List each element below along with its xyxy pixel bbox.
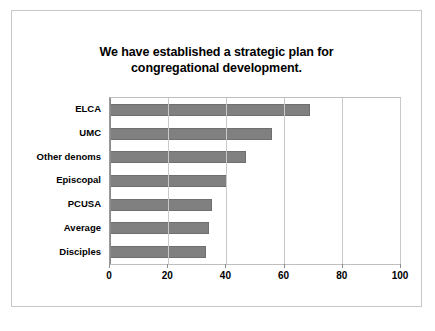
tick-label-60: 60 [278, 270, 289, 281]
gridline-20 [168, 98, 169, 264]
category-label: Average [64, 222, 105, 233]
chart-frame: We have established a strategic plan for… [11, 10, 422, 307]
category-label-row: ELCA [12, 97, 105, 121]
category-label: Other denoms [37, 151, 105, 162]
page-artifact [6, 316, 206, 324]
category-label: ELCA [75, 103, 105, 114]
category-label: PCUSA [68, 198, 105, 209]
category-label-row: Episcopal [12, 168, 105, 192]
bar-elca [110, 104, 310, 116]
category-label: Episcopal [56, 174, 105, 185]
bar-row [110, 217, 400, 241]
category-label-row: UMC [12, 121, 105, 145]
bar-row [110, 193, 400, 217]
tick-mark-0 [109, 264, 110, 268]
bar-pcusa [110, 199, 212, 211]
category-label-row: Other denoms [12, 144, 105, 168]
category-label: Disciples [59, 246, 105, 257]
bar-row [110, 98, 400, 122]
x-axis-ticks: 020406080100 [109, 264, 400, 286]
y-axis-line [110, 98, 111, 264]
bar-average [110, 222, 209, 234]
tick-label-40: 40 [220, 270, 231, 281]
tick-mark-80 [342, 264, 343, 268]
bar-row [110, 169, 400, 193]
chart-page: We have established a strategic plan for… [0, 0, 435, 331]
bar-row [110, 122, 400, 146]
category-label-row: PCUSA [12, 192, 105, 216]
tick-mark-40 [225, 264, 226, 268]
category-label-row: Average [12, 216, 105, 240]
tick-mark-60 [284, 264, 285, 268]
gridline-40 [226, 98, 227, 264]
category-label: UMC [79, 127, 105, 138]
gridline-80 [342, 98, 343, 264]
y-axis-category-labels: ELCAUMCOther denomsEpiscopalPCUSAAverage… [12, 97, 105, 263]
bar-disciples [110, 246, 206, 258]
tick-label-100: 100 [392, 270, 409, 281]
category-label-row: Disciples [12, 239, 105, 263]
bar-row [110, 240, 400, 264]
bar-umc [110, 128, 272, 140]
tick-label-20: 20 [162, 270, 173, 281]
tick-mark-100 [400, 264, 401, 268]
gridline-100 [400, 98, 401, 264]
bar-rows [110, 98, 400, 264]
plot-wrapper: ELCAUMCOther denomsEpiscopalPCUSAAverage… [12, 11, 423, 308]
tick-label-80: 80 [336, 270, 347, 281]
bar-row [110, 145, 400, 169]
tick-label-0: 0 [106, 270, 112, 281]
gridline-60 [284, 98, 285, 264]
tick-mark-20 [167, 264, 168, 268]
plot-area [109, 97, 401, 265]
